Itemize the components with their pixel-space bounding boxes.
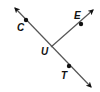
label-e: E (74, 10, 81, 21)
ray-ue (51, 10, 93, 47)
geometry-diagram: C U E T (0, 0, 100, 92)
point-e (79, 22, 83, 26)
point-c (24, 18, 28, 22)
label-t: T (61, 70, 68, 81)
label-c: C (17, 22, 25, 33)
point-t (67, 64, 71, 68)
label-u: U (41, 46, 49, 57)
